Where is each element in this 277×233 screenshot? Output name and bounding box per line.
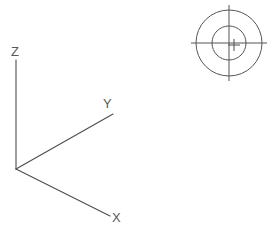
x-axis-line bbox=[16, 169, 110, 216]
technical-drawing-svg: Z Y X bbox=[0, 0, 277, 233]
coordinate-axis-triad: Z Y X bbox=[11, 44, 121, 225]
y-axis-label: Y bbox=[103, 96, 112, 111]
x-axis-label: X bbox=[112, 210, 121, 225]
z-axis-label: Z bbox=[11, 44, 19, 59]
datum-target-symbol bbox=[191, 5, 267, 81]
drawing-canvas: Z Y X bbox=[0, 0, 277, 233]
y-axis-line bbox=[16, 114, 113, 169]
